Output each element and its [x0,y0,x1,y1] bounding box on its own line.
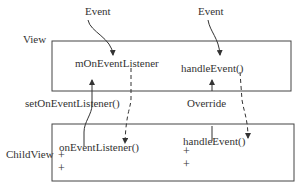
view-listener-field: mOnEventListener [75,57,159,69]
child-handler-method: handleEvent() [183,135,245,147]
child-right-member-2: + [183,158,190,170]
child-left-member-1: + [58,149,65,161]
child-right-member-1: + [183,145,190,157]
override-label: Override [186,97,227,109]
set-listener-label: setOnEventListener() [25,97,120,109]
event-label-left: Event [85,5,111,17]
view-label: View [23,33,46,45]
event-arrow-right [208,20,220,55]
child-listener-method: onEventListener() [59,141,139,153]
event-arrow-left [88,20,113,55]
event-label-right: Event [198,5,224,17]
handler-dispatch-arrow [240,72,248,138]
view-handler-method: handleEvent() [181,62,243,74]
child-left-member-2: + [58,162,65,174]
child-view-label: ChildView [6,148,54,160]
set-listener-arrow [84,80,92,146]
listener-dispatch-arrow [125,68,131,143]
